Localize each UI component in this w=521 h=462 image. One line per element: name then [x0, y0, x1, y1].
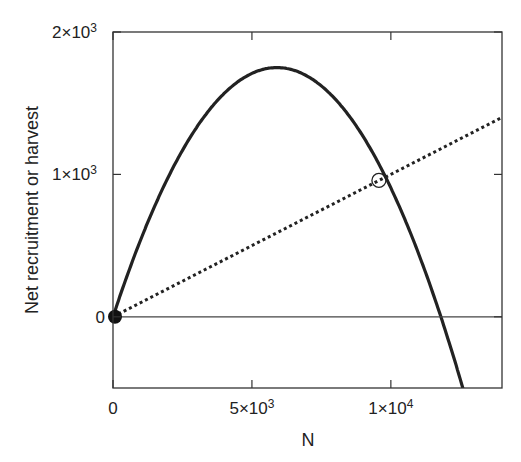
series-group: [113, 68, 502, 409]
plot-area: [108, 68, 502, 409]
harvest-line: [113, 117, 502, 316]
x-axis-title: N: [302, 430, 315, 450]
x-tick-labels: 05×1031×104: [108, 397, 413, 418]
y-tick-label: 0: [96, 308, 105, 327]
tick-exponent: 4: [407, 397, 414, 411]
y-tick-label: 2×103: [52, 21, 97, 42]
x-tick-label: 0: [108, 399, 117, 418]
tick-exponent: 3: [90, 21, 97, 35]
x-tick-label: 1×104: [368, 397, 413, 418]
stable-equilibrium-marker: [372, 173, 386, 187]
y-tick-labels: 01×1032×103: [52, 21, 105, 327]
axes: [113, 32, 502, 388]
chart: 05×1031×104 01×1032×103 N Net recruitmen…: [0, 0, 521, 462]
recruitment-curve: [113, 68, 469, 409]
tick-exponent: 3: [90, 163, 97, 177]
y-tick-label: 1×103: [52, 163, 97, 184]
x-tick-label: 5×103: [229, 397, 274, 418]
y-axis-title: Net recruitment or harvest: [22, 106, 42, 314]
plot-frame: [113, 32, 502, 388]
tick-exponent: 3: [268, 397, 275, 411]
